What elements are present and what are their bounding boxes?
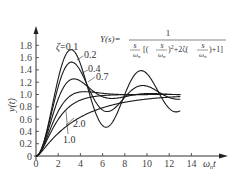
label-zeta-1-0: 1.0 xyxy=(63,134,76,145)
svg-text:ωn: ωn xyxy=(199,51,207,59)
x-tick-label: 14 xyxy=(186,158,196,169)
response-curve-zeta-0-1 xyxy=(36,50,180,156)
y-tick-label: 1.8 xyxy=(20,40,33,51)
x-tick-label: 10 xyxy=(142,158,152,169)
y-tick-label: 0 xyxy=(27,151,32,162)
response-curve-zeta-1 xyxy=(36,95,180,157)
svg-text:Y(s)=: Y(s)= xyxy=(100,34,121,44)
leader-0-7 xyxy=(88,77,95,82)
svg-text:s: s xyxy=(160,41,163,50)
label-zeta-0-7: 0.7 xyxy=(96,71,109,82)
svg-text:)2+2ζ(: )2+2ζ( xyxy=(168,44,188,54)
x-tick-label: 12 xyxy=(164,158,174,169)
label-zeta-0-2: 0.2 xyxy=(84,49,97,60)
label-zeta-2-0: 2.0 xyxy=(73,118,86,129)
y-tick-label: 1.0 xyxy=(20,89,33,100)
x-tick-label: 6 xyxy=(100,158,105,169)
transfer-function-formula: Y(s)= 1 s ωn [( s ωn )2+2ζ( s ωn )+1] xyxy=(100,28,226,59)
y-tick-label: 1.4 xyxy=(20,64,33,75)
x-axis-label: ωnt xyxy=(203,158,216,170)
label-zeta-0-1: ζ=0.1 xyxy=(56,41,78,53)
y-tick-label: 1.2 xyxy=(20,77,33,88)
y-axis-label: y(t) xyxy=(6,97,18,113)
y-axis-arrow-icon xyxy=(34,26,39,34)
svg-text:ωn: ωn xyxy=(133,51,141,59)
x-tick-label: 0 xyxy=(34,158,39,169)
y-tick-label: 0.6 xyxy=(20,114,33,125)
y-tick-label: 0.2 xyxy=(20,138,33,149)
x-tick-label: 4 xyxy=(78,158,83,169)
leader-1-0 xyxy=(66,111,68,134)
svg-text:ωn: ωn xyxy=(158,51,166,59)
y-tick-label: 0.8 xyxy=(20,101,33,112)
svg-text:1: 1 xyxy=(166,28,171,38)
svg-text:)+1]: )+1] xyxy=(209,45,223,54)
response-curves xyxy=(36,50,180,156)
y-tick-label: 0.4 xyxy=(20,126,33,137)
y-tick-label: 1.6 xyxy=(20,52,33,63)
step-response-chart: 00.20.40.60.81.01.21.41.61.8 02468101214… xyxy=(0,0,239,180)
x-tick-label: 2 xyxy=(56,158,61,169)
svg-text:[(: [( xyxy=(143,45,149,54)
svg-text:s: s xyxy=(201,41,204,50)
x-axis-arrow-icon xyxy=(219,154,228,159)
svg-text:s: s xyxy=(133,41,136,50)
x-tick-label: 8 xyxy=(122,158,127,169)
x-ticks: 02468101214 xyxy=(34,153,197,169)
